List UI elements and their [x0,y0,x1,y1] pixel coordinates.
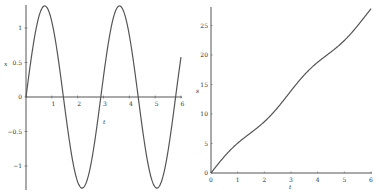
y-tick-label: −1 [13,162,22,169]
x-tick-label: 1 [236,176,240,183]
x-tick-label: 6 [369,176,373,183]
x-tick-label: 2 [77,100,81,107]
y-tick-label: 25 [200,22,208,29]
right-plot-s-vs-t: 01234560510152025st [196,7,373,190]
y-tick-label: 5 [204,140,208,147]
x-tick-label: 4 [129,100,133,107]
x-tick-label: 2 [262,176,266,183]
y-tick-label: 0.5 [12,59,22,66]
x-tick-label: 3 [289,176,293,183]
x-tick-label: 1 [51,100,55,107]
y-tick-label: 1 [18,24,22,31]
y-tick-label: 20 [200,51,208,58]
y-tick-label: 10 [200,110,208,117]
x-axis-label: t [103,118,106,125]
y-tick-label: 0 [204,169,208,176]
left-plot-x-vs-t: 123456−1−0.500.51xt [4,5,185,190]
x-tick-label: 3 [103,100,107,107]
y-tick-label: −0.5 [7,128,22,135]
x-tick-label: 4 [316,176,320,183]
y-axis-label: x [4,60,8,67]
x-tick-label: 6 [181,100,185,107]
x-tick-label: 0 [209,176,213,183]
figure: 123456−1−0.500.51xt 01234560510152025st [0,0,379,195]
y-axis-label: s [196,87,199,94]
y-tick-label: 15 [200,81,208,88]
y-tick-label: 0 [18,93,22,100]
x-tick-label: 5 [155,100,159,107]
series-line-s [211,9,371,173]
x-axis-label: t [289,183,292,190]
x-tick-label: 5 [342,176,346,183]
